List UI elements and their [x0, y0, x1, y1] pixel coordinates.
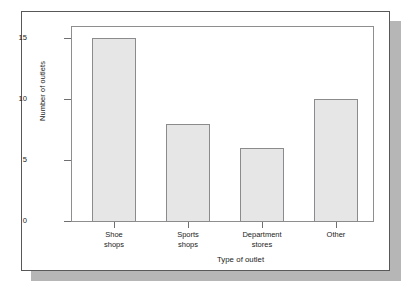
x-axis-title-part-1: Type [217, 255, 234, 264]
bar-sports-shops[interactable] [166, 124, 210, 222]
y-tick-label-5: 5 [0, 155, 27, 165]
y-tick-mark-5 [64, 160, 71, 161]
y-tick-label-15: 15 [0, 33, 27, 43]
x-tick-mark-sports-shops [188, 222, 189, 228]
x-axis-title-part-2: of outlet [234, 255, 264, 264]
y-tick-mark-15 [64, 38, 71, 39]
y-tick-mark-0 [64, 221, 71, 222]
bar-department-stores[interactable] [240, 148, 284, 222]
x-axis-title: Typeof outlet [0, 255, 419, 264]
x-tick-label-line-1: Other [286, 230, 386, 240]
y-tick-label-10: 10 [0, 94, 27, 104]
y-tick-mark-10 [64, 99, 71, 100]
x-tick-label-line-2: stores [212, 240, 312, 250]
x-tick-mark-other [336, 222, 337, 228]
x-tick-label-other: Other [286, 230, 386, 240]
bar-other[interactable] [314, 99, 358, 222]
y-axis-title: Number of outlets [38, 41, 52, 141]
y-tick-label-0: 0 [0, 216, 27, 226]
x-tick-mark-department-stores [262, 222, 263, 228]
x-tick-mark-shoe-shops [114, 222, 115, 228]
bar-shoe-shops[interactable] [92, 38, 136, 222]
